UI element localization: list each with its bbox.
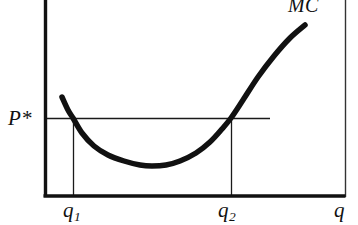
mc-curve-label: MC — [288, 0, 319, 15]
price-axis-label: P* — [8, 108, 32, 129]
q2-tick-label: q2 — [218, 200, 236, 223]
q2-tick-label-subscript: 2 — [229, 209, 236, 224]
marginal-cost-diagram: P* q1 q2 q MC — [0, 0, 358, 225]
diagram-canvas — [0, 0, 358, 225]
q2-tick-label-base: q — [218, 198, 229, 222]
q1-tick-label-subscript: 1 — [74, 209, 81, 224]
x-axis-label: q — [334, 200, 345, 221]
mc-curve — [62, 25, 305, 166]
q1-tick-label: q1 — [63, 200, 81, 223]
q1-tick-label-base: q — [63, 198, 74, 222]
